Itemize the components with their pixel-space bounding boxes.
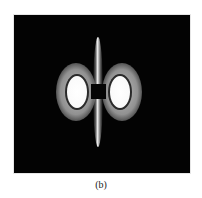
figure-caption: (b) (0, 179, 202, 190)
center-block (91, 84, 106, 99)
right-lobe-core (110, 76, 130, 108)
figure-image (14, 15, 190, 173)
left-lobe-core (67, 76, 87, 108)
